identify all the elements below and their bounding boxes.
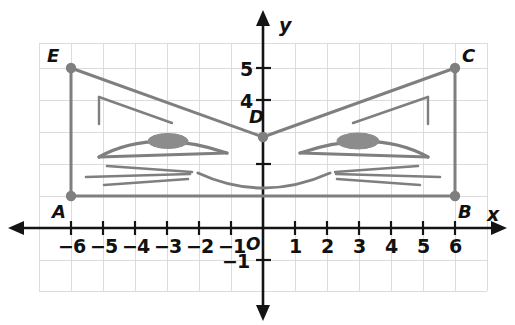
right-whisker-bottom xyxy=(337,179,420,185)
point-label-D: D xyxy=(249,108,264,126)
point-label-C: C xyxy=(462,47,475,65)
y-axis-label: y xyxy=(279,16,291,35)
x-tick-label-6: 6 xyxy=(449,237,461,256)
left-whisker-middle xyxy=(86,174,190,177)
point-D-marker xyxy=(258,132,268,142)
x-tick-label-2: 2 xyxy=(321,237,333,256)
right-whisker-top xyxy=(335,166,418,172)
point-A-marker xyxy=(66,191,76,201)
right-eye-lower-lid xyxy=(300,153,428,157)
x-tick-label-4: 4 xyxy=(385,237,397,256)
x-tick-label--2: −2 xyxy=(186,237,213,256)
left-eye-lower-lid xyxy=(99,153,227,157)
point-E-marker xyxy=(66,63,76,73)
point-label-A: A xyxy=(52,203,66,221)
axis-arrowheads xyxy=(8,10,507,321)
coordinate-plane-graphic xyxy=(0,0,515,325)
figure-canvas: −6 −5 −4 −3 −2 −1 1 2 3 4 5 6 5 4 −1 O y… xyxy=(0,0,515,325)
origin-label: O xyxy=(246,236,260,253)
right-eye-pupil xyxy=(337,133,379,149)
right-whisker-middle xyxy=(336,174,440,177)
x-axis-label: x xyxy=(487,205,499,224)
x-tick-label--3: −3 xyxy=(154,237,181,256)
left-eye-pupil xyxy=(148,134,188,149)
x-tick-label--4: −4 xyxy=(122,237,149,256)
x-axis-arrow-left xyxy=(8,221,24,235)
left-whisker-bottom xyxy=(104,179,188,185)
x-tick-label-5: 5 xyxy=(417,237,429,256)
point-B-marker xyxy=(450,191,460,201)
point-label-B: B xyxy=(458,203,472,221)
y-tick-label-5: 5 xyxy=(240,60,252,79)
x-tick-label--6: −6 xyxy=(58,237,85,256)
x-tick-label--5: −5 xyxy=(90,237,117,256)
y-axis-arrow-down xyxy=(256,305,270,321)
point-label-E: E xyxy=(47,47,59,65)
y-tick-label--1: −1 xyxy=(222,252,249,271)
point-C-marker xyxy=(450,63,460,73)
y-axis-arrow-up xyxy=(256,10,270,26)
x-tick-label-1: 1 xyxy=(289,237,301,256)
left-whisker-top xyxy=(107,166,192,172)
x-tick-label-3: 3 xyxy=(353,237,365,256)
